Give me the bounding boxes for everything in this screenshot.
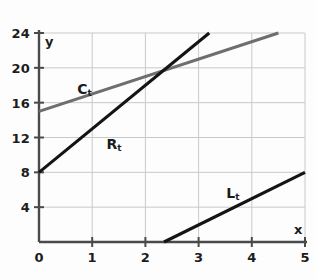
series-label-text: L (226, 185, 235, 201)
series-label-subscript: t (88, 88, 92, 98)
y-tick-label: 20 (12, 62, 31, 75)
x-axis-title: x (294, 223, 302, 236)
y-axis-title: y (45, 35, 53, 48)
y-tick-label: 24 (12, 27, 31, 40)
series-label-subscript: t (117, 143, 121, 153)
x-tick-label: 3 (179, 251, 219, 264)
series-label-R_t: Rt (107, 137, 122, 151)
chart-container: 4812162024 012345 y x CtRtLt (0, 0, 316, 280)
x-tick-label: 4 (232, 251, 272, 264)
series-label-text: C (77, 81, 87, 97)
series-line-C_t (39, 33, 278, 111)
y-tick-label: 4 (21, 201, 30, 214)
x-tick-label: 2 (125, 251, 165, 264)
y-tick-label: 16 (12, 97, 31, 110)
series-label-subscript: t (235, 192, 239, 202)
x-tick-label: 0 (19, 251, 59, 264)
series-label-text: R (107, 136, 118, 152)
series-label-C_t: Ct (77, 82, 92, 96)
y-tick-label: 8 (21, 166, 30, 179)
series-label-L_t: Lt (226, 186, 239, 200)
x-tick-label: 1 (72, 251, 112, 264)
x-tick-label: 5 (285, 251, 316, 264)
y-tick-label: 12 (12, 132, 31, 145)
